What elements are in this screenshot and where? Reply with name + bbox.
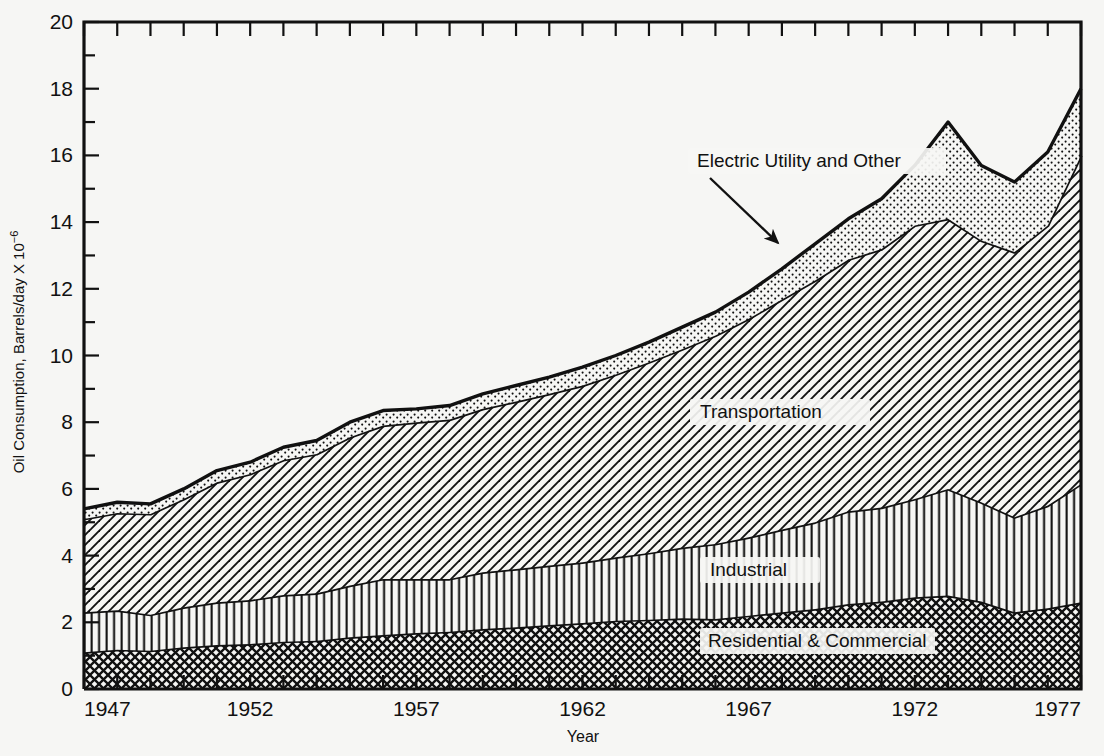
series-label-industrial: Industrial (700, 557, 820, 583)
y-tick-label: 10 (50, 344, 73, 367)
x-axis-tick-labels: 1947195219571962196719721977 (84, 697, 1081, 720)
y-tick-label: 4 (61, 544, 73, 567)
y-tick-label: 14 (50, 210, 74, 233)
series-label-industrial-text: Industrial (710, 559, 787, 580)
x-axis-title: Year (567, 728, 600, 745)
y-tick-label: 2 (61, 610, 73, 633)
svg-text:Oil Consumption, Barrels/day X: Oil Consumption, Barrels/day X 10−6 (8, 231, 27, 474)
x-tick-label: 1952 (227, 697, 274, 720)
y-axis-title: Oil Consumption, Barrels/day X 10−6 (8, 231, 27, 474)
callout-electric-utility-text: Electric Utility and Other (697, 150, 901, 171)
y-tick-label: 8 (61, 410, 73, 433)
y-tick-label: 12 (50, 277, 73, 300)
y-tick-label: 6 (61, 477, 73, 500)
series-label-residential-text: Residential & Commercial (708, 630, 927, 651)
x-tick-label: 1977 (1034, 697, 1081, 720)
x-tick-label: 1962 (559, 697, 606, 720)
x-tick-label: 1947 (84, 697, 131, 720)
x-tick-label: 1967 (725, 697, 772, 720)
series-label-transportation: Transportation (690, 399, 870, 425)
y-axis-title-exponent: −6 (8, 231, 20, 244)
oil-consumption-stacked-area-chart: 02468101214161820 1947195219571962196719… (0, 0, 1104, 756)
chart-figure: 02468101214161820 1947195219571962196719… (0, 0, 1104, 756)
series-label-residential: Residential & Commercial (700, 628, 935, 654)
series-label-transportation-text: Transportation (700, 401, 822, 422)
y-tick-label: 20 (50, 10, 73, 33)
x-tick-label: 1957 (393, 697, 440, 720)
y-tick-label: 0 (61, 677, 73, 700)
y-axis-title-text: Oil Consumption, Barrels/day X 10 (10, 243, 27, 473)
y-tick-label: 16 (50, 143, 73, 166)
x-tick-label: 1972 (891, 697, 938, 720)
y-tick-label: 18 (50, 77, 73, 100)
